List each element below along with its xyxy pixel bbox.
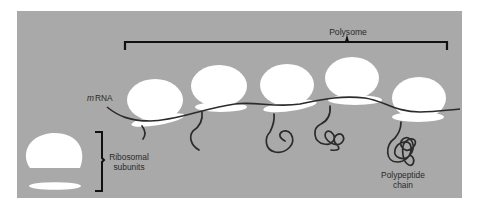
ribosome-5 [392,77,446,122]
polysome-diagram: Polysome mRNA Polypeptide chain [0,0,480,209]
ribosomal-label-line1: Ribosomal [109,152,149,162]
mrna-label: mRNA [87,93,113,103]
large-subunit [260,64,314,106]
large-subunit [325,57,379,99]
mrna-suffix: RNA [95,93,113,103]
mrna-prefix: m [87,93,94,103]
free-small-subunit [29,182,81,190]
ribosome-2 [191,65,247,112]
polypeptide-label-line2: chain [393,180,413,190]
small-subunit [392,112,444,122]
large-subunit [191,65,247,107]
ribosomal-label-line2: subunits [113,162,144,172]
polysome-label: Polysome [329,27,367,37]
polypeptide-label-line1: Polypeptide [381,170,425,180]
